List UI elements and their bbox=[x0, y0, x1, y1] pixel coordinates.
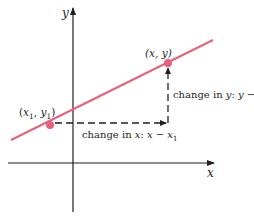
point-x-y bbox=[164, 59, 172, 67]
y-axis-label: y bbox=[61, 6, 69, 20]
change-in-y-label: change in y: y − y1 bbox=[173, 89, 254, 103]
point-x1-y1-label: (x1, y1) bbox=[19, 106, 55, 121]
slope-diagram: x y (x1, y1) (x, y) change in x: x − x1 … bbox=[0, 0, 254, 224]
point-x-y-label: (x, y) bbox=[145, 47, 172, 59]
point-x1-y1 bbox=[46, 121, 54, 129]
x-axis-label: x bbox=[207, 166, 214, 180]
change-in-x-label: change in x: x − x1 bbox=[82, 129, 177, 143]
